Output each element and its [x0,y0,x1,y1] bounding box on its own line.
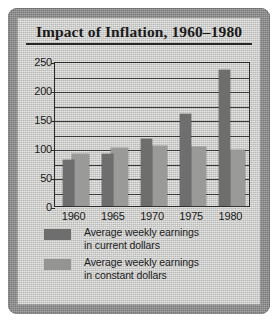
y-tick-mark [51,208,55,209]
plot-wrapper: 050100150200250 19601965197019751980 [18,62,261,220]
y-tick-label: 200 [34,85,52,97]
x-tick-label: 1980 [219,210,243,222]
x-tick-label: 1960 [62,210,86,222]
title-block: Impact of Inflation, 1960–1980 [26,23,252,45]
x-tick-label: 1975 [179,210,203,222]
chart-panel: Impact of Inflation, 1960–1980 050100150… [17,17,261,305]
bar-group [94,63,133,206]
bar-constant-dollars [72,154,89,206]
legend-label-line2: in current dollars [84,239,199,252]
y-tick-label: 250 [34,56,52,68]
y-tick-label: 100 [34,143,52,155]
title-divider [26,43,252,45]
bar-current-dollars [180,114,191,206]
bar-group [212,63,251,206]
legend-item: Average weekly earningsin constant dolla… [44,256,254,281]
bar-group [133,63,172,206]
legend-swatch [44,259,71,270]
y-tick-label: 150 [34,114,52,126]
bar-current-dollars [141,139,152,206]
legend-label: Average weekly earningsin current dollar… [84,226,199,251]
bar-constant-dollars [150,146,167,206]
bar-group [173,63,212,206]
bar-constant-dollars [189,147,206,206]
figure-frame: Impact of Inflation, 1960–1980 050100150… [8,8,270,314]
bar-constant-dollars [111,148,128,206]
legend-item: Average weekly earningsin current dollar… [44,226,254,251]
bar-current-dollars [63,160,74,206]
bar-current-dollars [219,70,230,206]
page-title: Impact of Inflation, 1960–1980 [26,23,252,41]
y-tick-label: 0 [46,201,52,213]
legend-swatch [44,229,71,240]
bar-constant-dollars [228,150,245,206]
bar-group [55,63,94,206]
x-tick-label: 1965 [101,210,125,222]
legend-label: Average weekly earningsin constant dolla… [84,256,199,281]
legend-label-line1: Average weekly earnings [84,256,199,269]
bar-current-dollars [102,154,113,206]
x-tick-label: 1970 [140,210,164,222]
plot-area [54,62,250,207]
legend-label-line2: in constant dollars [84,269,199,282]
y-tick-label: 50 [40,172,52,184]
x-axis: 19601965197019751980 [54,210,250,226]
legend-label-line1: Average weekly earnings [84,226,199,239]
legend: Average weekly earningsin current dollar… [44,226,254,286]
y-axis: 050100150200250 [18,62,52,207]
